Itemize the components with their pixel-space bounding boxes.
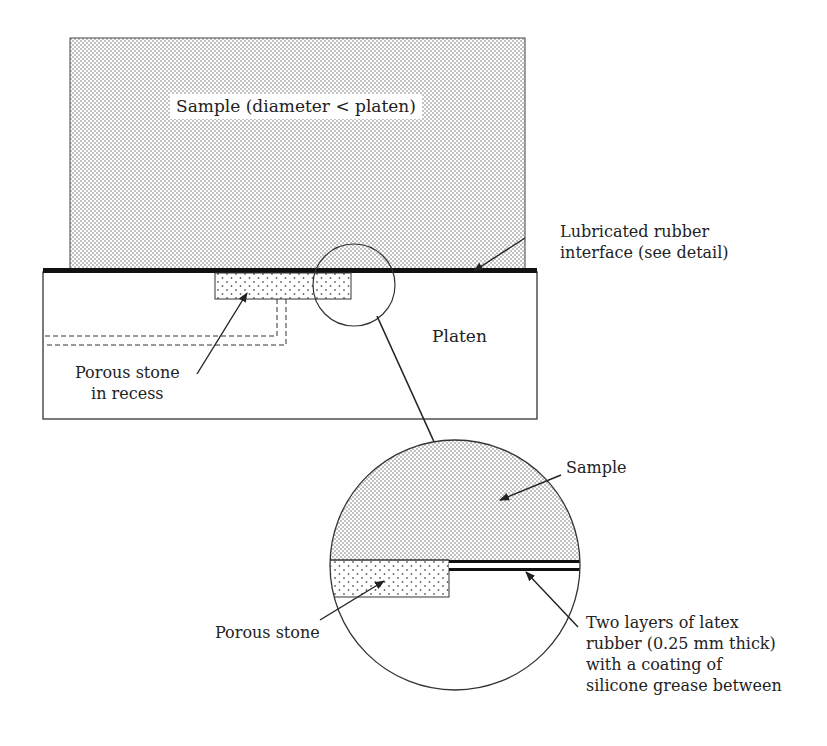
detail-latex-layers <box>449 560 591 563</box>
porous-stone-recess-label-line2: in recess <box>75 383 180 404</box>
platen-label: Platen <box>432 326 487 347</box>
detail-porous-stone-label: Porous stone <box>215 622 320 643</box>
porous-stone-recess <box>215 273 351 299</box>
detail-porous-stone <box>320 560 449 597</box>
porous-stone-recess-label-line1: Porous stone <box>75 362 180 383</box>
porous-stone-recess-label: Porous stone in recess <box>75 362 180 404</box>
lubricated-interface-label-line1: Lubricated rubber <box>560 221 729 242</box>
detail-sample-label: Sample <box>566 457 627 478</box>
lubricated-interface <box>43 268 537 273</box>
sample-label: Sample (diameter < platen) <box>170 94 422 119</box>
latex-label-line1: Two layers of latex <box>586 612 782 633</box>
sample-block <box>70 38 525 270</box>
latex-label-line4: silicone grease between <box>586 675 782 696</box>
latex-label-line2: rubber (0.25 mm thick) <box>586 633 782 654</box>
latex-label-line3: with a coating of <box>586 654 782 675</box>
detail-view <box>320 430 591 700</box>
latex-layers-label: Two layers of latex rubber (0.25 mm thic… <box>586 612 782 696</box>
lubricated-interface-label: Lubricated rubber interface (see detail) <box>560 221 729 263</box>
lubricated-interface-label-line2: interface (see detail) <box>560 242 729 263</box>
